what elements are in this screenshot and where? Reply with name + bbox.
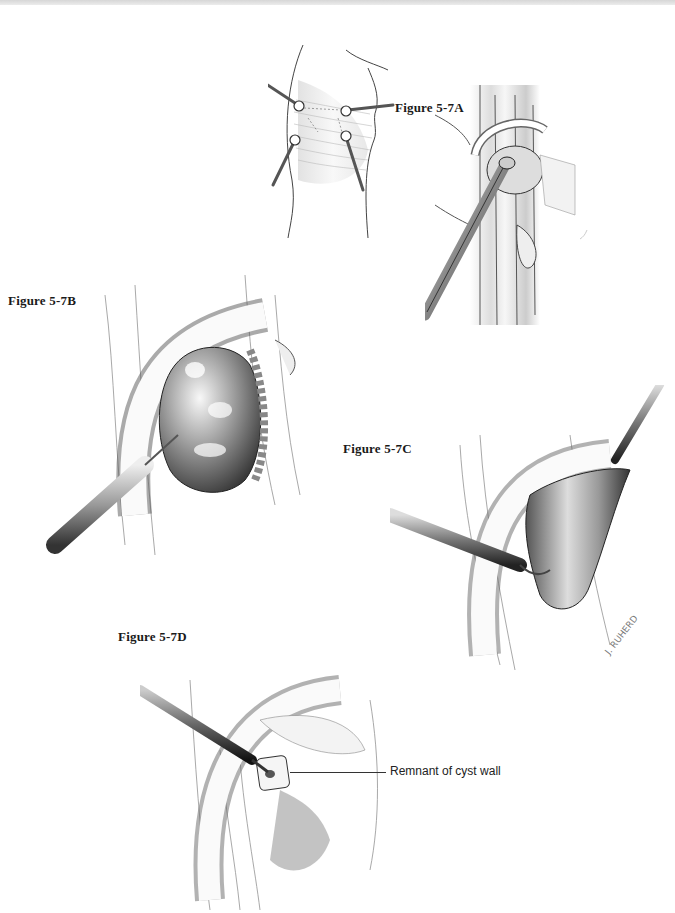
callout-leader-line xyxy=(290,772,386,773)
figure-5-7b-cyst-aspiration xyxy=(45,255,335,565)
callout-remnant-of-cyst-wall: Remnant of cyst wall xyxy=(390,764,501,778)
figure-5-7a-knee-sketch xyxy=(268,40,418,240)
page-top-edge xyxy=(0,0,675,5)
figure-5-7c-cyst-excision xyxy=(390,385,675,675)
figure-5-7a-arthroscopic-view xyxy=(425,75,595,335)
